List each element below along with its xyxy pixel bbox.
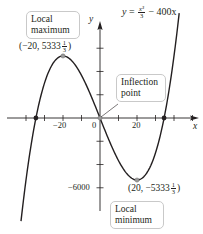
y-axis-label: y xyxy=(89,14,93,24)
x-axis-label: x xyxy=(193,121,197,131)
origin-label: 0 xyxy=(92,120,96,130)
callout-line-1: Inflection xyxy=(121,77,161,88)
coords-fraction: 13 xyxy=(62,40,67,53)
local-minimum-coords: (20, −533313) xyxy=(128,182,180,195)
callout-line-1: Local xyxy=(31,14,75,25)
x-tick-label-20: 20 xyxy=(132,120,141,130)
fraction-denominator: 3 xyxy=(171,189,176,195)
x-intercept-left-marker xyxy=(34,116,39,121)
x-intercept-right-marker xyxy=(162,116,167,121)
local-maximum-marker xyxy=(61,54,65,58)
callout-line-2: maximum xyxy=(31,25,75,36)
local-minimum-callout: Local minimum xyxy=(110,201,164,229)
callout-line-2: point xyxy=(121,88,161,99)
local-maximum-callout: Local maximum xyxy=(26,11,80,39)
coords-text: (20, −5333 xyxy=(128,183,170,193)
callout-line-2: minimum xyxy=(115,215,159,226)
coords-fraction: 13 xyxy=(171,182,176,195)
y-tick-label-neg6000: −6000 xyxy=(68,182,90,192)
equation-label: y = x³3 − 400x xyxy=(122,6,177,19)
inflection-leader-line xyxy=(101,104,118,117)
x-tick-label-neg20: −20 xyxy=(53,120,66,130)
inflection-point-callout: Inflection point xyxy=(116,74,166,102)
coords-close-paren: ) xyxy=(177,183,180,193)
fraction-denominator: 3 xyxy=(62,47,67,53)
coords-close-paren: ) xyxy=(68,41,71,51)
equals-sign: = xyxy=(129,6,137,17)
equation-lhs: y xyxy=(122,6,126,17)
equation-rest: − 400x xyxy=(148,6,176,17)
coords-text: (−20, 5333 xyxy=(19,41,61,51)
fraction-denominator: 3 xyxy=(138,13,145,19)
local-maximum-coords: (−20, 533313) xyxy=(19,40,71,53)
callout-line-1: Local xyxy=(115,204,159,215)
equation-fraction: x³3 xyxy=(138,6,145,19)
